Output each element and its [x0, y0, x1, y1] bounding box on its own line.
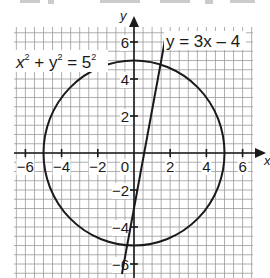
- tick-label: −2: [89, 158, 106, 175]
- y-axis-label: y: [119, 8, 128, 23]
- tick-label: 6: [238, 158, 246, 175]
- tick-label: −4: [53, 158, 70, 175]
- tick-label: −2: [112, 182, 129, 199]
- tick-label: −6: [17, 158, 34, 175]
- tick-label: −6: [112, 256, 129, 273]
- svg-text:y = 3x – 4: y = 3x – 4: [166, 32, 240, 51]
- coordinate-graph: x y −6−4−2246642−2−4−60 x2 + y2 = 52 y =…: [0, 0, 270, 278]
- tick-label: 0: [121, 158, 129, 175]
- tick-label: 4: [121, 71, 129, 88]
- tick-label: 2: [166, 158, 174, 175]
- x-axis-label: x: [263, 153, 270, 168]
- tick-label: 2: [121, 108, 129, 125]
- tick-label: 4: [202, 158, 210, 175]
- circle-equation-label: x2 + y2 = 52: [14, 50, 108, 72]
- tick-label: 6: [121, 34, 129, 51]
- y-axis-arrow-icon: [129, 16, 139, 27]
- line-equation-label: y = 3x – 4: [164, 31, 246, 51]
- top-text-fragment: [20, 0, 255, 4]
- tick-label: −4: [112, 219, 129, 236]
